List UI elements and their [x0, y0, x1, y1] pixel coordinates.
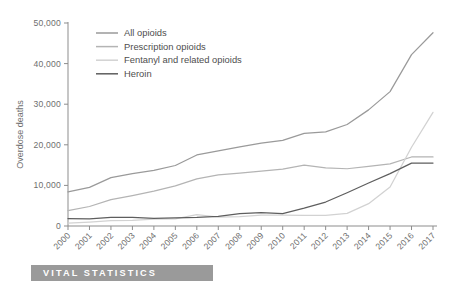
series-line-heroin [68, 163, 433, 219]
legend-label-heroin: Heroin [124, 68, 152, 79]
legend-label-prescription-opioids: Prescription opioids [124, 41, 206, 52]
x-tick-label: 2013 [330, 230, 351, 251]
x-tick-label: 2006 [180, 230, 201, 251]
x-tick-label: 2011 [288, 230, 309, 251]
x-tick-label: 2002 [94, 230, 115, 251]
x-tick-label: 2003 [116, 230, 137, 251]
vital-statistics-banner: VITAL STATISTICS [31, 265, 213, 281]
y-tick-label: 20,000 [34, 140, 62, 150]
y-tick-label: 30,000 [34, 99, 62, 109]
x-tick-label: 2008 [223, 230, 244, 251]
y-axis-title: Overdose deaths [15, 100, 25, 169]
y-tick-label: 50,000 [34, 18, 62, 28]
vital-statistics-label: VITAL STATISTICS [31, 268, 157, 278]
y-tick-label: 40,000 [34, 59, 62, 69]
series-line-prescription-opioids [68, 157, 433, 211]
x-tick-label: 2016 [395, 230, 416, 251]
x-tick-label: 2014 [352, 230, 373, 251]
series-line-all-opioids [68, 33, 433, 192]
legend-label-fentanyl-and-related-opioids: Fentanyl and related opioids [124, 54, 242, 65]
y-tick-label: 10,000 [34, 180, 62, 190]
x-tick-label: 2000 [51, 230, 72, 251]
x-tick-label: 2010 [266, 230, 287, 251]
overdose-deaths-figure: 010,00020,00030,00040,00050,000Overdose … [0, 0, 452, 285]
x-tick-label: 2001 [73, 230, 94, 251]
x-tick-label: 2004 [137, 230, 158, 251]
line-chart: 010,00020,00030,00040,00050,000Overdose … [0, 0, 452, 262]
series-line-fentanyl-and-related-opioids [68, 112, 433, 223]
x-tick-label: 2012 [309, 230, 330, 251]
x-tick-label: 2005 [159, 230, 180, 251]
x-tick-label: 2017 [416, 230, 437, 251]
x-tick-label: 2007 [202, 230, 223, 251]
legend-label-all-opioids: All opioids [124, 27, 167, 38]
y-tick-label: 0 [56, 221, 61, 231]
x-tick-label: 2015 [373, 230, 394, 251]
x-tick-label: 2009 [244, 230, 265, 251]
